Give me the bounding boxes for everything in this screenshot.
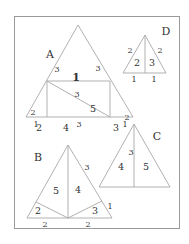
figure-b-base-left: 2 xyxy=(42,220,47,229)
figure-b-area-5: 5 xyxy=(53,185,59,196)
figure-b-area-3: 3 xyxy=(92,205,98,216)
figure-c-height-length: 3 xyxy=(128,148,133,157)
figure-b-label: B xyxy=(34,151,42,164)
figure-b-right-corner-length: 1 xyxy=(107,202,112,211)
figure-c-label: C xyxy=(153,130,161,143)
figure-b-base-right: 2 xyxy=(85,220,90,229)
dissection-puzzle-diagram-lower: 1 3 1 B 3 5 4 2 3 1 2 2 C 3 4 5 xyxy=(0,0,189,244)
figure-c-area-4: 4 xyxy=(118,161,124,172)
figure-b-area-2: 2 xyxy=(35,205,41,216)
figure-c: C 3 4 5 xyxy=(99,124,170,187)
figure-a-base-right: 1 xyxy=(122,120,127,129)
figure-c-area-5: 5 xyxy=(143,161,149,172)
figure-a-base-left: 1 xyxy=(33,120,38,129)
figure-b-area-4: 4 xyxy=(75,184,81,195)
figure-b-right-length: 3 xyxy=(84,163,89,172)
figure-a-base-mid: 3 xyxy=(76,120,81,129)
